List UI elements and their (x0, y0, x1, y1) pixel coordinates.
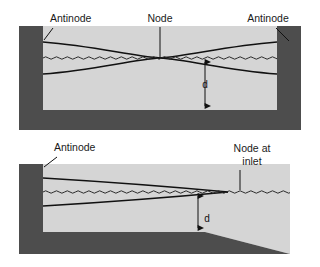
label-node-at-inlet-line1: Node at (234, 142, 271, 154)
label-antinode-left-bottom: Antinode (54, 141, 96, 153)
basin-bed-top (19, 110, 301, 130)
label-depth-d-bottom: d (204, 213, 210, 224)
label-node-at-inlet-line2: inlet (242, 155, 261, 167)
label-depth-d-top: d (202, 79, 208, 90)
label-antinode-right-top: Antinode (247, 12, 289, 24)
diagram-canvas: Antinode Node Antinode d (0, 0, 320, 267)
seiche-diagram-figure: Antinode Node Antinode d (0, 0, 320, 267)
closed-basin-panel: Antinode Node Antinode d (19, 12, 301, 130)
label-antinode-left-top: Antinode (50, 12, 92, 24)
label-node-top: Node (147, 12, 172, 24)
